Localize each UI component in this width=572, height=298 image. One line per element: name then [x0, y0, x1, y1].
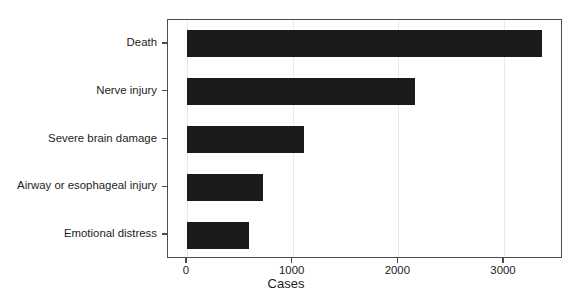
y-tick-label: Death [0, 37, 157, 48]
bar [187, 126, 304, 153]
plot-area [167, 19, 562, 258]
bar [187, 30, 542, 57]
y-tick-label: Emotional distress [0, 228, 157, 239]
x-tick-label: 2000 [357, 265, 437, 276]
bar [187, 78, 415, 105]
x-tick-mark [291, 258, 292, 263]
y-tick-mark [162, 138, 167, 139]
y-tick-label: Severe brain damage [0, 133, 157, 144]
y-tick-mark [162, 90, 167, 91]
y-tick-mark [162, 186, 167, 187]
y-tick-label: Nerve injury [0, 85, 157, 96]
x-tick-label: 3000 [463, 265, 543, 276]
y-tick-mark [162, 42, 167, 43]
y-tick-mark [162, 233, 167, 234]
bar [187, 174, 263, 201]
x-tick-mark [397, 258, 398, 263]
x-tick-label: 0 [146, 265, 226, 276]
x-tick-label: 1000 [252, 265, 332, 276]
y-tick-label: Airway or esophageal injury [0, 180, 157, 191]
x-axis-title: Cases [0, 277, 572, 290]
bar-chart-figure: DeathNerve injurySevere brain damageAirw… [0, 0, 572, 298]
bar [187, 222, 249, 249]
x-tick-mark [185, 258, 186, 263]
x-tick-mark [502, 258, 503, 263]
